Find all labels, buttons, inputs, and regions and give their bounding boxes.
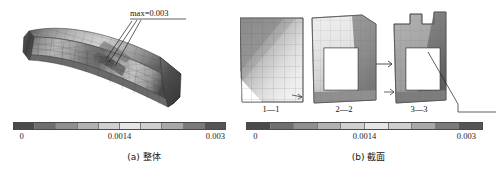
colorbar-tick-min: 0 [19,131,23,141]
panel-b-caption: (b) 截面 [240,150,497,163]
panel-a-overall: max=0.003 0 0.0014 0.003 (a) 整体 [0,0,248,176]
colorbar-segment [412,123,436,129]
colorbar-segment [141,123,162,129]
colorbar-tick-mid: 0.0014 [353,131,376,141]
colorbar-segment [294,123,318,129]
panel-b-colorbar-group: 0 0.0014 0.003 [246,122,483,145]
colorbar-segment [459,123,482,129]
colorbar-segment [120,123,141,129]
section-label-1-1: 1—1 [263,104,280,114]
panel-b-colorbar-labels: 0 0.0014 0.003 [246,131,483,145]
section-1-1 [240,18,303,102]
section-3-3 [384,12,446,103]
panel-a-plot [0,0,248,118]
colorbar-tick-max: 0.003 [206,131,225,141]
panel-a-colorbar-group: 0 0.0014 0.003 [13,122,226,145]
colorbar-segment [162,123,183,129]
colorbar-segment [247,123,271,129]
colorbar-segment [184,123,205,129]
colorbar-segment [341,123,365,129]
colorbar-segment [35,123,56,129]
colorbar-segment [389,123,413,129]
panel-a-caption: (a) 整体 [0,150,268,163]
colorbar-segment [78,123,99,129]
colorbar-segment [318,123,342,129]
panel-b-plot [240,0,497,118]
cross-sections-contour [240,0,497,118]
panel-a-colorbar [13,122,226,130]
colorbar-tick-min: 0 [253,131,257,141]
beam-3d-contour [0,0,248,118]
colorbar-tick-mid: 0.0014 [108,131,131,141]
section-label-3-3: 3—3 [411,104,428,114]
section-2-2 [312,15,392,103]
panel-b-sections: 1—1 2—2 3—3 max=0.003 0 0.0014 0.003 [240,0,497,176]
panel-a-max-annotation: max=0.003 [130,8,169,18]
colorbar-segment [14,123,35,129]
colorbar-segment [436,123,460,129]
colorbar-segment [99,123,120,129]
colorbar-segment [56,123,77,129]
colorbar-segment [205,123,225,129]
panel-b-colorbar [246,122,483,130]
colorbar-segment [271,123,295,129]
colorbar-tick-max: 0.003 [457,131,476,141]
figure-container: max=0.003 0 0.0014 0.003 (a) 整体 [0,0,497,176]
panel-a-colorbar-labels: 0 0.0014 0.003 [13,131,226,145]
section-label-2-2: 2—2 [336,104,353,114]
colorbar-segment [365,123,389,129]
